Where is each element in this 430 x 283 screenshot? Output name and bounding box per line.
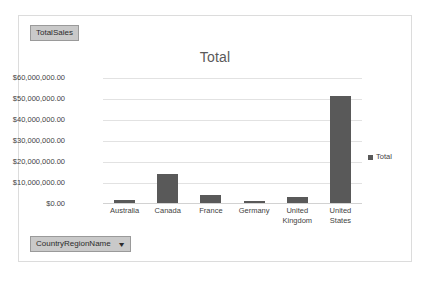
legend-marker-total (368, 155, 373, 160)
bar-series-total[interactable] (103, 78, 362, 203)
bar-slot (233, 78, 276, 203)
pivotchart-frame[interactable]: TotalSales Total $0.00$10,000,000.00$20,… (18, 15, 412, 262)
bar-france[interactable] (200, 195, 221, 203)
legend-label-total: Total (376, 153, 392, 161)
y-axis-tick-label: $0.00 (0, 200, 65, 208)
bar-slot (103, 78, 146, 203)
x-axis-label-australia: Australia (103, 206, 146, 225)
bar-united-states[interactable] (330, 96, 351, 203)
y-axis-tick-label: $40,000,000.00 (0, 116, 65, 124)
x-axis-line (103, 203, 362, 204)
x-axis-label-united-states: United States (319, 206, 362, 225)
chart-title: Total (19, 49, 411, 65)
pivot-field-button-axis-label: CountryRegionName (36, 238, 111, 250)
chart-legend[interactable]: Total (368, 153, 392, 161)
x-axis-label-canada: Canada (146, 206, 189, 225)
y-axis-tick-label: $20,000,000.00 (0, 158, 65, 166)
bar-australia[interactable] (114, 200, 135, 203)
x-axis-category-labels: AustraliaCanadaFranceGermanyUnited Kingd… (103, 206, 362, 225)
y-axis-tick-label: $50,000,000.00 (0, 95, 65, 103)
pivot-field-button-axis[interactable]: CountryRegionName ▼ (30, 236, 131, 252)
x-axis-label-united-kingdom: United Kingdom (276, 206, 319, 225)
x-axis-label-france: France (189, 206, 232, 225)
bar-germany[interactable] (244, 201, 265, 203)
y-axis-tick-label: $30,000,000.00 (0, 137, 65, 145)
x-axis-label-germany: Germany (233, 206, 276, 225)
bar-slot (189, 78, 232, 203)
chevron-down-icon[interactable]: ▼ (117, 241, 126, 248)
plot-area (103, 78, 362, 204)
y-axis-tick-label: $60,000,000.00 (0, 74, 65, 82)
bar-slot (319, 78, 362, 203)
y-axis-tick-label: $10,000,000.00 (0, 179, 65, 187)
bar-slot (276, 78, 319, 203)
bar-slot (146, 78, 189, 203)
bar-canada[interactable] (157, 174, 178, 203)
pivot-field-button-values-label: TotalSales (36, 27, 73, 39)
bar-united-kingdom[interactable] (287, 197, 308, 203)
pivot-field-button-values[interactable]: TotalSales (30, 25, 79, 41)
